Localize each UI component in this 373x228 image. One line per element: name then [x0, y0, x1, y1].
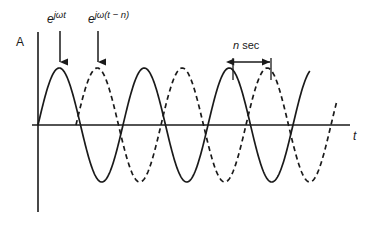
interval-label-unit: sec [239, 39, 259, 51]
expression-exponent-solid: jωt [54, 9, 66, 20]
expression-base-solid: e [47, 12, 54, 26]
y-axis-label: A [16, 36, 24, 48]
interval-label: n sec [233, 40, 259, 51]
expression-label-dashed: ejω(t − n) [88, 10, 129, 25]
expression-label-solid: ejωt [47, 10, 66, 25]
expression-exponent-dashed: jω(t − n) [95, 9, 130, 20]
phase-shift-waveform-figure [0, 0, 373, 228]
expression-base-dashed: e [88, 12, 95, 26]
figure-background [0, 0, 373, 228]
x-axis-label: t [353, 130, 356, 142]
